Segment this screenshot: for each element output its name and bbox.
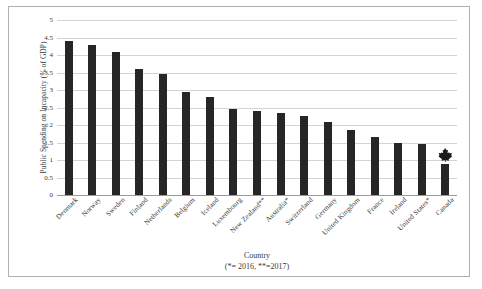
x-axis-tick-label: Iceland: [199, 196, 220, 217]
bar[interactable]: [206, 97, 214, 195]
chart-figure: Public Spending on Incapacity (% of GDP)…: [8, 6, 470, 277]
bar[interactable]: [441, 164, 449, 196]
x-axis-tick-label: Ireland: [388, 196, 409, 217]
bar-slot: [104, 20, 128, 195]
bar-slot: [245, 20, 269, 195]
bar-slot: [175, 20, 199, 195]
y-axis-tick-label: 1: [50, 156, 54, 164]
x-axis-title-note: (*= 2016, **=2017): [57, 261, 457, 272]
x-axis-title-main: Country: [57, 250, 457, 261]
plot-area: 00.511.522.533.544.55: [57, 20, 457, 195]
x-axis-tick-label: France: [365, 196, 385, 216]
bar-slot: [292, 20, 316, 195]
y-axis-tick-label: 1.5: [44, 139, 53, 147]
bar-slot: [269, 20, 293, 195]
x-axis-tick-label: Norway: [80, 196, 102, 218]
bar-slot: [198, 20, 222, 195]
bar-slot: [386, 20, 410, 195]
x-axis-tick-label: Canada: [435, 196, 456, 217]
bar-slot: [410, 20, 434, 195]
bar-slot: [57, 20, 81, 195]
y-axis-tick-label: 0.5: [44, 174, 53, 182]
bar-slot: [433, 20, 457, 195]
bar[interactable]: [182, 92, 190, 195]
y-axis-tick-label: 3: [50, 86, 54, 94]
bar-series: [57, 20, 457, 195]
bar-slot: [363, 20, 387, 195]
bar[interactable]: [229, 109, 237, 195]
bar[interactable]: [371, 137, 379, 195]
y-axis-tick-label: 2: [50, 121, 54, 129]
x-axis-tick-label: Belgium: [173, 196, 197, 220]
bar-slot: [151, 20, 175, 195]
bar[interactable]: [418, 144, 426, 195]
bar-slot: [128, 20, 152, 195]
bar[interactable]: [112, 52, 120, 196]
y-axis-tick-label: 0: [50, 191, 54, 199]
bar-slot: [339, 20, 363, 195]
bar[interactable]: [300, 116, 308, 195]
x-axis-tick-label: Sweden: [104, 196, 126, 218]
bar-slot: [81, 20, 105, 195]
y-axis-tick-label: 4.5: [44, 34, 53, 42]
maple-leaf-icon: [438, 147, 453, 162]
x-axis-tick-label: Denmark: [54, 196, 79, 221]
x-axis-tick-label: Finland: [128, 196, 150, 218]
bar[interactable]: [347, 130, 355, 195]
bar-slot: [316, 20, 340, 195]
bar[interactable]: [88, 45, 96, 196]
y-axis-tick-label: 5: [50, 16, 54, 24]
bar[interactable]: [159, 74, 167, 195]
x-axis-tick-labels: DenmarkNorwaySwedenFinlandNetherlandsBel…: [57, 196, 457, 254]
bar[interactable]: [253, 111, 261, 195]
y-axis-tick-label: 4: [50, 51, 54, 59]
bar[interactable]: [277, 113, 285, 195]
bar[interactable]: [324, 122, 332, 196]
y-axis-tick-label: 2.5: [44, 104, 53, 112]
bar-slot: [222, 20, 246, 195]
y-axis-tick-label: 3.5: [44, 69, 53, 77]
x-axis-title: Country (*= 2016, **=2017): [57, 250, 457, 272]
bar[interactable]: [394, 143, 402, 196]
bar[interactable]: [65, 41, 73, 195]
bar[interactable]: [135, 69, 143, 195]
